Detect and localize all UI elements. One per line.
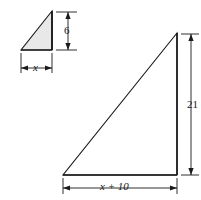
large-base-arrow-left-icon [63, 185, 70, 190]
small-base-arrow-left-icon [21, 65, 28, 70]
small-triangle-shape [21, 11, 52, 50]
large-triangle-base-label: x + 10 [100, 181, 129, 192]
large-height-arrow-up-icon [188, 34, 193, 41]
large-base-arrow-right-icon [170, 185, 177, 190]
large-triangle-shape [63, 33, 177, 175]
small-triangle-base-label: x [33, 62, 38, 73]
small-height-arrow-up-icon [65, 12, 70, 19]
figure-canvas [0, 0, 201, 200]
small-triangle-height-label: 6 [64, 25, 70, 36]
large-height-arrow-down-icon [188, 168, 193, 175]
geometry-figure: 6 x 21 x + 10 [0, 0, 201, 200]
small-base-arrow-right-icon [45, 65, 52, 70]
large-triangle-height-label: 21 [187, 99, 198, 110]
small-height-arrow-down-icon [65, 43, 70, 50]
